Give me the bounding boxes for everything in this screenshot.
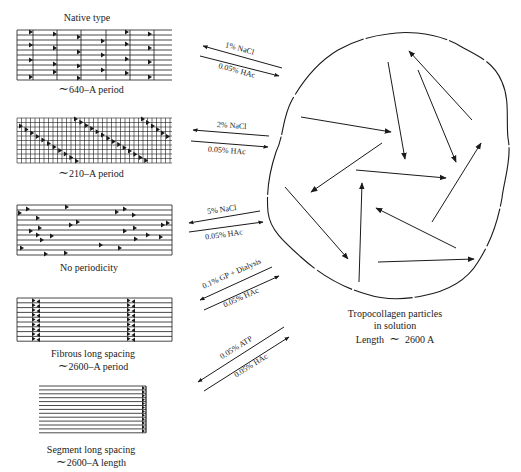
particle-arrow	[285, 187, 348, 259]
collagen-aggregation-diagram	[0, 0, 521, 472]
segment-long-spacing-panel	[39, 386, 146, 433]
particle-arrow	[356, 170, 446, 178]
solution-caption-line1: Tropocollagen particles	[348, 308, 442, 320]
particle-arrow	[432, 143, 481, 222]
approx-icon: ∼	[58, 81, 69, 96]
fibrous-long-spacing-panel	[17, 298, 172, 342]
sls-caption-line2: ∼2600–A length	[56, 456, 126, 469]
reaction-2-forward-arrow	[193, 130, 269, 136]
210-period-caption: ∼210–A period	[58, 167, 124, 180]
no-periodicity-caption: No periodicity	[60, 262, 118, 274]
particle-arrow	[359, 183, 362, 282]
solution-caption-line3: Length ∼ 2600 A	[356, 333, 434, 346]
particle-arrow	[409, 51, 472, 120]
approx-icon: ∼	[389, 331, 400, 346]
particle-arrow	[311, 143, 382, 192]
no-periodicity-panel	[17, 205, 172, 257]
native-type-caption: ∼640–A period	[58, 83, 124, 96]
native-type-panel	[17, 30, 172, 81]
particle-arrow	[378, 259, 474, 262]
particle-arrow	[388, 62, 405, 159]
particle-arrow	[376, 208, 456, 248]
tropocollagen-particles	[285, 51, 481, 282]
fls-caption-line2: ∼2600–A period	[58, 360, 129, 373]
particle-arrow	[301, 117, 391, 132]
210-period-panel	[17, 117, 172, 164]
particle-arrow	[418, 70, 456, 162]
approx-icon: ∼	[58, 165, 69, 180]
approx-icon: ∼	[58, 358, 69, 373]
approx-icon: ∼	[56, 454, 67, 469]
native-type-title: Native type	[64, 12, 110, 24]
